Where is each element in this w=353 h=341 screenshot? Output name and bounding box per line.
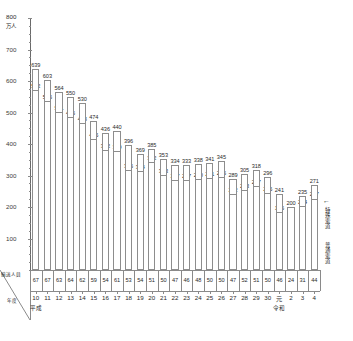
- x-axis-label: 13: [65, 294, 77, 301]
- x-axis-label: 12: [53, 294, 65, 301]
- bar-column[interactable]: [44, 18, 51, 270]
- bar-column[interactable]: [299, 18, 306, 270]
- bar-inner-segment: [253, 186, 260, 270]
- x-axis-label: 16: [100, 294, 112, 301]
- bar-column[interactable]: [276, 18, 283, 270]
- x-axis-label: 23: [181, 294, 193, 301]
- bar-column[interactable]: [67, 18, 74, 270]
- y-minor-tick: [29, 223, 31, 224]
- diagonal-divider-icon: [0, 270, 30, 320]
- y-minor-tick: [29, 105, 31, 106]
- legend-item-0: 特殊索道: [325, 207, 330, 229]
- bar-column[interactable]: [229, 18, 236, 270]
- x-axis-label: 2: [285, 294, 297, 301]
- bar-column[interactable]: [171, 18, 178, 270]
- table-cell-value: 47: [227, 277, 239, 283]
- table-cell-value: 44: [308, 277, 320, 283]
- bar-inner-segment: [311, 199, 318, 271]
- y-minor-tick: [29, 42, 31, 43]
- legend: ← 特殊索道 普通索道: [322, 196, 350, 276]
- bar-column[interactable]: [287, 18, 294, 270]
- y-tick-label: 400: [6, 140, 26, 147]
- table-cell-value: 52: [239, 277, 251, 283]
- x-axis-label: 14: [76, 294, 88, 301]
- bar-column[interactable]: [102, 18, 109, 270]
- bar-inner-segment: [264, 193, 271, 270]
- x-axis-label: 18: [123, 294, 135, 301]
- x-axis-label: 11: [42, 294, 54, 301]
- y-tick-label: 200: [6, 203, 26, 210]
- table-cell-value: 63: [53, 277, 65, 283]
- table-cell-value: 50: [158, 277, 170, 283]
- y-tick-label: 700: [6, 46, 26, 53]
- bar-column[interactable]: [55, 18, 62, 270]
- bar-inner-segment: [113, 151, 120, 270]
- bar-inner-segment: [90, 139, 97, 270]
- bar-inner-segment: [206, 178, 213, 270]
- bar-column[interactable]: [137, 18, 144, 270]
- y-minor-tick: [29, 215, 31, 216]
- y-minor-tick: [29, 183, 31, 184]
- bar-column[interactable]: [160, 18, 167, 270]
- table-cell-value: 50: [216, 277, 228, 283]
- bar-column[interactable]: [218, 18, 225, 270]
- x-axis-label: 元: [274, 294, 286, 303]
- y-minor-tick: [29, 168, 31, 169]
- bar-column[interactable]: [183, 18, 190, 270]
- y-minor-tick: [29, 246, 31, 247]
- x-axis-label: 25: [204, 294, 216, 301]
- y-minor-tick: [29, 254, 31, 255]
- x-axis-label: 27: [227, 294, 239, 301]
- y-minor-tick: [29, 73, 31, 74]
- bar-column[interactable]: [90, 18, 97, 270]
- table-cell-value: 54: [134, 277, 146, 283]
- plot-area: 6395726035365645015504865304684744154363…: [30, 18, 320, 270]
- y-minor-tick: [29, 97, 31, 98]
- y-minor-tick: [29, 152, 31, 153]
- table-cell-value: 24: [285, 277, 297, 283]
- bar-inner-segment: [137, 171, 144, 270]
- bar-inner-segment: [79, 123, 86, 270]
- bar-inner-segment: [299, 206, 306, 270]
- bar-outer-segment: [287, 207, 294, 270]
- bar-inner-segment: [44, 101, 51, 270]
- y-tick-label: 600: [6, 77, 26, 84]
- y-minor-tick: [29, 199, 31, 200]
- x-axis-label: 4: [308, 294, 320, 301]
- bar-inner-segment: [125, 170, 132, 270]
- table-cell-value: 46: [274, 277, 286, 283]
- table-cell-value: 50: [204, 277, 216, 283]
- y-minor-tick: [29, 113, 31, 114]
- x-axis-label: 29: [250, 294, 262, 301]
- bar-inner-segment: [276, 212, 283, 270]
- y-minor-tick: [29, 239, 31, 240]
- bar-column[interactable]: [32, 18, 39, 270]
- bar-column[interactable]: [264, 18, 271, 270]
- legend-arrow-icon: ←: [323, 197, 330, 204]
- era-label-0: 平成: [27, 304, 45, 312]
- bar-column[interactable]: [206, 18, 213, 270]
- table-rule: [30, 270, 320, 271]
- era-label-1: 令和: [270, 304, 288, 312]
- bar-inner-segment: [171, 180, 178, 270]
- bar-column[interactable]: [241, 18, 248, 270]
- x-axis-label: 21: [158, 294, 170, 301]
- bar-column[interactable]: [253, 18, 260, 270]
- bar-inner-segment: [32, 90, 39, 270]
- bar-column[interactable]: [79, 18, 86, 270]
- x-axis-label: 20: [146, 294, 158, 301]
- y-minor-tick: [29, 176, 31, 177]
- bar-column[interactable]: [125, 18, 132, 270]
- bar-inner-segment: [241, 190, 248, 270]
- corner-label-top: 輸送人員: [1, 271, 21, 277]
- bar-column[interactable]: [113, 18, 120, 270]
- bar-column[interactable]: [195, 18, 202, 270]
- y-tick-label: 500: [6, 109, 26, 116]
- bar-column[interactable]: [311, 18, 318, 270]
- chart-page: 800 万人 639572603536564501550486530468474…: [0, 0, 353, 341]
- bar-column[interactable]: [148, 18, 155, 270]
- table-cell-value: 46: [181, 277, 193, 283]
- bar-inner-segment: [160, 175, 167, 270]
- y-minor-tick: [29, 50, 31, 51]
- y-minor-tick: [29, 136, 31, 137]
